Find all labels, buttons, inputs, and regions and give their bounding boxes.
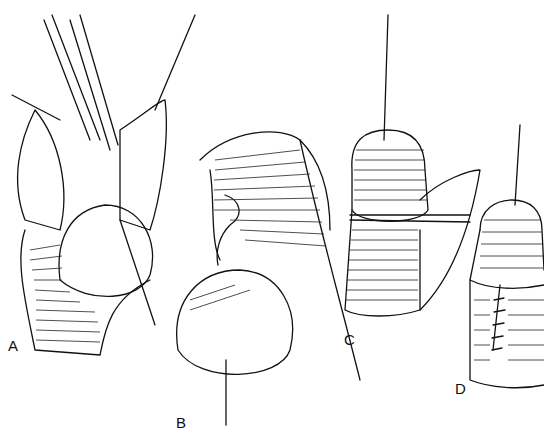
panel-d-drawing — [470, 125, 544, 388]
surgical-illustration — [0, 0, 544, 433]
panel-label-c: C — [344, 331, 355, 348]
panel-b-drawing — [177, 132, 360, 425]
panel-label-d: D — [455, 380, 466, 397]
panel-label-b: B — [176, 414, 186, 431]
panel-label-a: A — [8, 337, 18, 354]
panel-a-drawing — [12, 15, 195, 355]
panel-c-drawing — [345, 15, 480, 316]
